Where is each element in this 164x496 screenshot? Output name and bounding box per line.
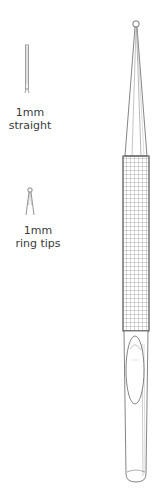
variant-type: straight	[0, 119, 60, 132]
variant-label-ring: 1mm ring tips	[8, 224, 68, 250]
straight-tip-icon	[22, 44, 32, 94]
variant-size: 1mm	[8, 224, 68, 237]
variant-type: ring tips	[8, 237, 68, 250]
knurled-handle-instrument-icon	[110, 14, 164, 494]
variant-size: 1mm	[0, 106, 60, 119]
variant-label-straight: 1mm straight	[0, 106, 60, 132]
ring-tip-icon	[24, 187, 36, 217]
